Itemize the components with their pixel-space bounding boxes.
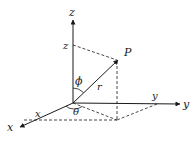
z-component-label: z — [62, 40, 69, 51]
point-p-label: P — [123, 46, 132, 59]
y-axis — [73, 103, 180, 104]
z-projection-line — [73, 45, 117, 60]
x-component-label: x — [35, 108, 41, 119]
phi-arc — [73, 88, 84, 93]
y-component-label: y — [151, 90, 158, 101]
phi-label: ϕ — [75, 75, 83, 88]
y-projection-line — [117, 104, 157, 120]
y-axis-label: y — [182, 98, 190, 111]
x-axis-label: x — [7, 121, 14, 134]
radius-label: r — [97, 81, 103, 92]
z-axis-label: z — [68, 6, 75, 19]
x-axis — [20, 103, 73, 127]
projection-lines — [24, 45, 157, 120]
ground-projection-line — [73, 103, 117, 120]
theta-label: θ — [73, 106, 79, 117]
spherical-coordinates-diagram: z y x z y x P r ϕ θ — [0, 0, 196, 143]
